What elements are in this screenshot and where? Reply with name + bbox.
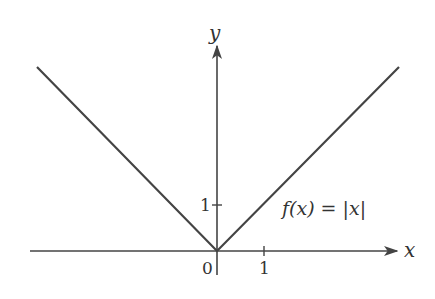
function-label: f(x) = |x|	[280, 197, 366, 220]
plot-canvas: y x 0 1 1 f(x) = |x|	[0, 0, 435, 299]
x-tick-label-1: 1	[259, 258, 270, 278]
x-axis-label: x	[404, 238, 415, 262]
abs-function-curve	[37, 67, 399, 251]
y-axis-label: y	[208, 21, 221, 45]
y-tick-label-1: 1	[200, 195, 211, 215]
origin-label: 0	[202, 258, 213, 278]
